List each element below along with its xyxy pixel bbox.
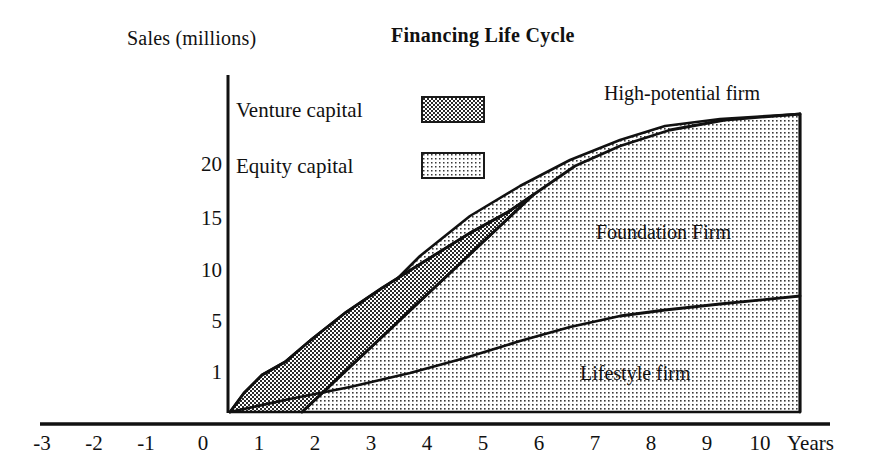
x-tick-label-10: 10 <box>738 432 782 455</box>
legend-swatch-equity-capital <box>421 152 485 179</box>
legend-swatch-venture-capital <box>421 96 485 123</box>
y-axis-title: Sales (millions) <box>127 28 256 50</box>
x-tick-label-7: 7 <box>575 432 615 455</box>
legend-label-equity-capital: Equity capital <box>236 155 353 178</box>
y-tick-label-20: 20 <box>186 153 222 176</box>
x-axis-unit-label: Years <box>787 432 834 455</box>
annotation-high-potential-firm: High-potential firm <box>604 83 784 105</box>
x-tick-label-9: 9 <box>687 432 727 455</box>
x-tick-label-5: 5 <box>463 432 503 455</box>
x-tick-label--1: -1 <box>126 432 166 455</box>
x-tick-label-1: 1 <box>239 432 279 455</box>
x-tick-label-0: 0 <box>183 432 223 455</box>
x-tick-label-2: 2 <box>295 432 335 455</box>
y-tick-label-5: 5 <box>186 310 222 333</box>
x-tick-label--3: -3 <box>22 432 62 455</box>
y-tick-label-15: 15 <box>186 207 222 230</box>
annotation-foundation-firm: Foundation Firm <box>596 222 756 244</box>
legend-label-venture-capital: Venture capital <box>236 99 363 122</box>
y-tick-label-1: 1 <box>186 361 222 384</box>
x-tick-label--2: -2 <box>74 432 114 455</box>
x-tick-label-4: 4 <box>407 432 447 455</box>
x-tick-label-8: 8 <box>631 432 671 455</box>
y-tick-label-10: 10 <box>186 259 222 282</box>
x-tick-label-3: 3 <box>351 432 391 455</box>
figure-root: Sales (millions) Financing Life Cycle Ve… <box>0 0 869 471</box>
annotation-lifestyle-firm: Lifestyle firm <box>580 363 760 385</box>
chart-title: Financing Life Cycle <box>391 25 575 47</box>
x-tick-label-6: 6 <box>519 432 559 455</box>
